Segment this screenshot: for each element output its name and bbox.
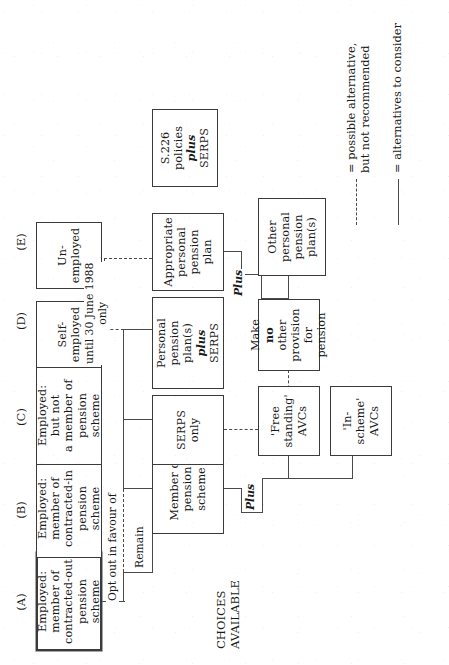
- make-no-emph: no: [262, 327, 276, 343]
- category-letter-c: (C): [14, 400, 28, 434]
- connector-plus-avc-left: [241, 488, 242, 513]
- secondary-box-free-standing-avcs: 'Free standing' AVCs: [258, 386, 320, 456]
- dashed-connector-1988-to-s226: [104, 258, 152, 259]
- category-letter-b: (B): [14, 493, 28, 527]
- ppp-line-4: SERPS: [208, 301, 221, 385]
- secondary-box-in-scheme-avcs: 'In-scheme' AVCs: [330, 386, 392, 456]
- ppp-line-2: pension plan(s): [168, 301, 194, 385]
- connector-optout-rail: [123, 329, 124, 489]
- connector-rail-to-ppp: [123, 419, 152, 420]
- connector-avc-to-free-standing: [288, 455, 289, 479]
- choice-box-serps-only: SERPS only: [152, 395, 224, 465]
- edge-label-until-1988: until 30 June 1988 only: [84, 262, 110, 365]
- choice-box-appropriate-personal-pension-plan: Appropriate personal pension plan: [152, 213, 224, 291]
- ppp-line-3-plus: plus: [195, 301, 208, 385]
- legend-dashed-text: = possible alternative, but not recommen…: [344, 5, 373, 173]
- legend-solid-text: = alternatives to consider: [390, 23, 404, 173]
- choice-box-s226-policies: S.226 policies plus SERPS: [152, 109, 218, 187]
- connector-remain-down: [123, 572, 153, 573]
- connector-plus-avc-drop: [241, 512, 262, 513]
- choice-box-personal-pension-plus-serps: Personal pension plan(s) plus SERPS: [152, 297, 224, 389]
- connector-avc-entry: [262, 478, 289, 479]
- make-no-line-1: Make no: [249, 303, 275, 367]
- category-letter-e: (E): [14, 225, 28, 259]
- diagram-page: PRESENT CATEGORY CHOICES AVAILABLE (A) (…: [0, 0, 449, 665]
- make-no-rest: other provision for pension: [276, 303, 329, 367]
- connector-plus-other-to-box: [288, 275, 289, 299]
- connector-rail-to-appp: [123, 329, 152, 330]
- edge-label-plus-other-ppp: Plus: [232, 269, 245, 297]
- secondary-box-make-no-other-provision: Make no other provision for pension: [258, 299, 320, 371]
- category-letter-d: (D): [14, 304, 28, 338]
- connector-plus-other-bar: [261, 274, 262, 299]
- edge-label-remain: Remain: [133, 525, 146, 569]
- connector-remain-to-member: [152, 533, 153, 573]
- s226-serps: SERPS: [198, 126, 211, 170]
- diagram-canvas: PRESENT CATEGORY CHOICES AVAILABLE (A) (…: [0, 0, 449, 665]
- s226-plus-emph: plus: [184, 135, 198, 162]
- legend-solid-line: [398, 179, 399, 225]
- present-category-box-a: Employed: member of contracted-out pensi…: [36, 552, 102, 651]
- row-label-choices-available: CHOICES AVAILABLE: [214, 539, 242, 649]
- connector-appp-to-plus: [224, 251, 242, 252]
- ppp-line-1: Personal: [155, 301, 168, 385]
- secondary-box-other-personal-pension-plans: Other personal pension plan(s): [258, 198, 326, 276]
- connector-member-to-plus-avc: [224, 488, 242, 489]
- connector-plus-avc-bar: [262, 479, 263, 513]
- connector-optout-rail-stub: [124, 488, 152, 489]
- edge-label-opt-out: Opt out in favour of: [106, 492, 119, 602]
- present-category-box-c: Employed: but not a member of pension sc…: [36, 366, 102, 465]
- s226-line-3: plus SERPS: [185, 126, 211, 170]
- connector-avc-vertical-rail: [288, 478, 352, 479]
- present-category-box-b: Employed: member of contracted-in pensio…: [36, 459, 102, 558]
- legend-dashed-line: [356, 179, 357, 225]
- category-letter-a: (A): [14, 585, 28, 619]
- dashed-connector-to-serps-only: [123, 489, 124, 602]
- s226-line-1: S.226: [159, 126, 172, 170]
- connector-avc-to-in-scheme: [352, 455, 353, 479]
- edge-label-plus-avc: Plus: [244, 483, 257, 511]
